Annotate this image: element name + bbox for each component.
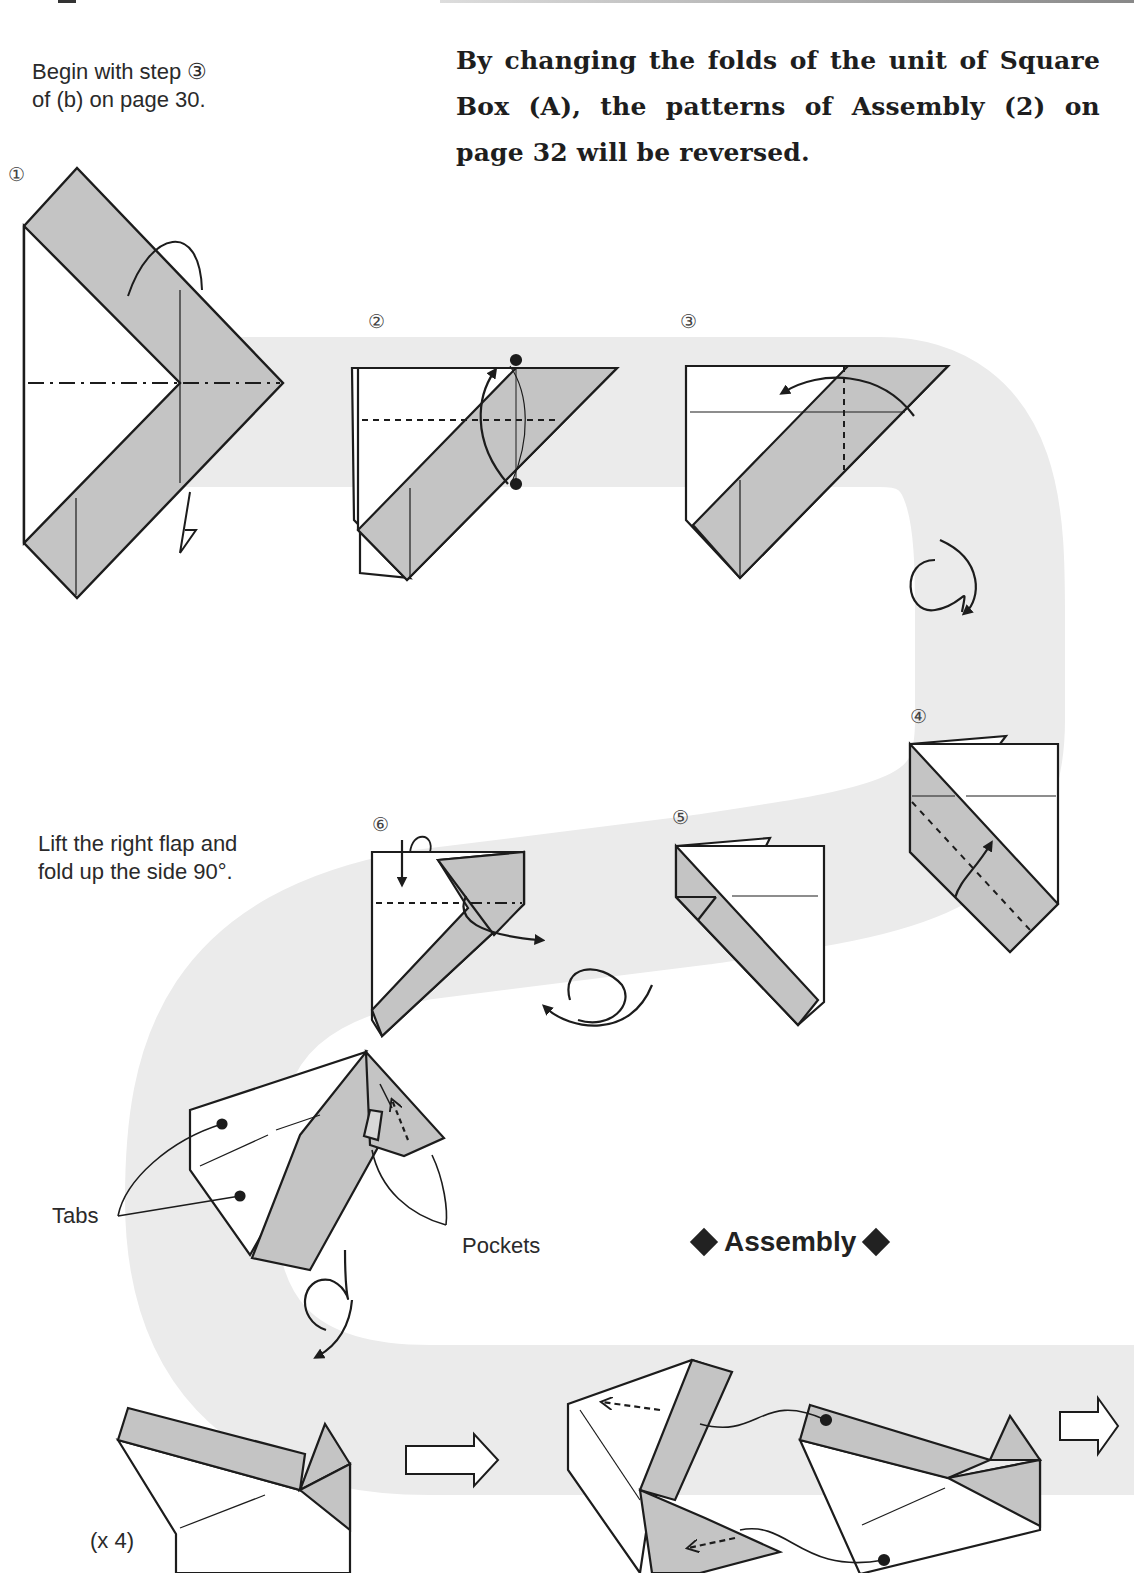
intro-line-2: of (b) on page 30. [32, 86, 207, 114]
folding-diagram [0, 0, 1134, 1573]
intro-note: Begin with step ③ of (b) on page 30. [32, 58, 207, 114]
step-6-note: Lift the right flap and fold up the side… [38, 830, 237, 886]
step-6-note-line-1: Lift the right flap and [38, 830, 237, 858]
pockets-label: Pockets [462, 1233, 540, 1259]
tabs-label: Tabs [52, 1203, 98, 1229]
assembly-heading: Assembly [694, 1226, 886, 1258]
step-number-6: ⑥ [372, 813, 389, 835]
diamond-icon [690, 1228, 718, 1256]
step-number-1: ① [8, 163, 25, 185]
step-number-2: ② [368, 310, 385, 332]
diamond-icon [862, 1228, 890, 1256]
step-6-note-line-2: fold up the side 90°. [38, 858, 237, 886]
step-number-3: ③ [680, 310, 697, 332]
assembly-heading-text: Assembly [724, 1226, 856, 1258]
step-number-5: ⑤ [672, 806, 689, 828]
step-6-diagram [372, 837, 540, 1036]
multiplier-label: (x 4) [90, 1528, 134, 1554]
step-4-diagram [910, 736, 1058, 952]
headline: By changing the folds of the unit of Squ… [456, 38, 1100, 176]
intro-line-1: Begin with step ③ [32, 58, 207, 86]
step-1-diagram [24, 168, 283, 598]
step-number-4: ④ [910, 705, 927, 727]
